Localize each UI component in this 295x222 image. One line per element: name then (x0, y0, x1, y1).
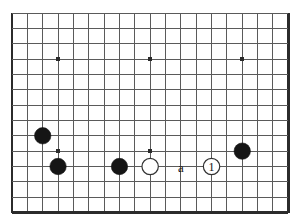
star-point-upper-left-marker (56, 57, 60, 61)
white-stone-1[interactable] (142, 158, 158, 174)
star-point-lower-left-marker (56, 149, 60, 153)
star-point-upper-mid-marker (148, 57, 152, 61)
go-board-diagram: 1a (0, 0, 295, 222)
black-stone-4[interactable] (234, 143, 250, 159)
point-label-a: a (178, 160, 184, 173)
star-point-lower-mid-marker (148, 149, 152, 153)
go-board-grid (0, 0, 295, 222)
star-point-upper-right-marker (240, 57, 244, 61)
black-stone-2[interactable] (50, 158, 66, 174)
black-stone-1[interactable] (35, 128, 51, 144)
black-stone-3[interactable] (111, 158, 127, 174)
white-stone-move-1-number: 1 (209, 161, 215, 173)
